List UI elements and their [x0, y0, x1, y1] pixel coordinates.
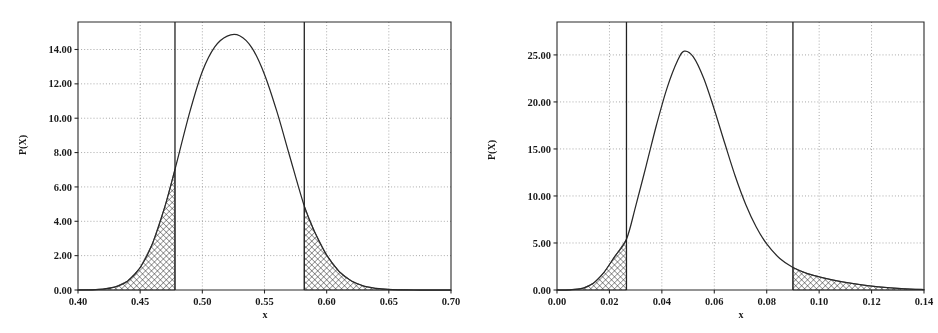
left-y-axis-title: P(X) — [17, 135, 29, 155]
y-tick-label: 0.00 — [54, 285, 72, 296]
right-plot-canvas: 0.000.020.040.060.080.100.120.140.005.00… — [469, 0, 938, 333]
y-tick-label: 6.00 — [54, 182, 72, 193]
x-tick-label: 0.12 — [862, 296, 880, 307]
x-tick-label: 0.02 — [600, 296, 618, 307]
x-tick-label: 0.40 — [69, 296, 87, 307]
x-tick-label: 0.04 — [653, 296, 672, 307]
right-y-axis-title: P(X) — [486, 140, 498, 160]
right-plot-frame — [557, 22, 924, 290]
right-density-plot-panel: 0.000.020.040.060.080.100.120.140.005.00… — [469, 0, 938, 333]
x-tick-label: 0.65 — [380, 296, 398, 307]
left-x-axis-title: x — [263, 309, 268, 320]
x-tick-label: 0.10 — [810, 296, 828, 307]
y-tick-label: 0.00 — [533, 285, 551, 296]
x-tick-label: 0.55 — [255, 296, 273, 307]
right-threshold-lines — [626, 22, 792, 290]
left-threshold-lines — [175, 22, 304, 290]
left-plot-canvas: 0.400.450.500.550.600.650.700.002.004.00… — [0, 0, 469, 333]
x-tick-label: 0.70 — [442, 296, 460, 307]
right-x-axis-title: x — [739, 309, 744, 320]
right-shaded-tails — [557, 239, 924, 290]
x-tick-label: 0.14 — [915, 296, 934, 307]
y-tick-label: 25.00 — [527, 50, 551, 61]
y-tick-label: 14.00 — [48, 44, 72, 55]
right-tick-labels: 0.000.020.040.060.080.100.120.140.005.00… — [527, 50, 934, 307]
y-tick-label: 8.00 — [54, 147, 72, 158]
left-tick-labels: 0.400.450.500.550.600.650.700.002.004.00… — [48, 44, 460, 307]
x-tick-label: 0.06 — [705, 296, 723, 307]
y-tick-label: 12.00 — [48, 78, 72, 89]
x-tick-label: 0.45 — [131, 296, 149, 307]
x-tick-label: 0.08 — [758, 296, 776, 307]
left-density-plot-panel: 0.400.450.500.550.600.650.700.002.004.00… — [0, 0, 469, 333]
x-tick-label: 0.60 — [317, 296, 335, 307]
y-tick-label: 2.00 — [54, 250, 72, 261]
x-tick-label: 0.50 — [193, 296, 211, 307]
y-tick-label: 4.00 — [54, 216, 72, 227]
left-gridlines — [78, 22, 451, 290]
right-density-curve — [557, 51, 924, 290]
y-tick-label: 5.00 — [533, 238, 551, 249]
two-panel-density-figure: 0.400.450.500.550.600.650.700.002.004.00… — [0, 0, 938, 333]
y-tick-label: 10.00 — [48, 113, 72, 124]
y-tick-label: 15.00 — [527, 144, 551, 155]
x-tick-label: 0.00 — [548, 296, 566, 307]
y-tick-label: 10.00 — [527, 191, 551, 202]
right-gridlines — [557, 22, 924, 290]
y-tick-label: 20.00 — [527, 97, 551, 108]
